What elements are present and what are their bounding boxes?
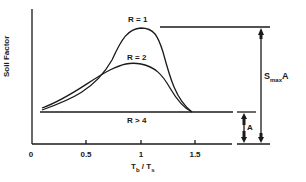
a-label: A <box>247 124 253 132</box>
r4-label: R > 4 <box>127 117 146 125</box>
series-r-1 <box>42 28 192 112</box>
smax-arrow-top <box>258 28 264 35</box>
smax-arrow-bottom <box>258 137 264 143</box>
r1-label: R = 1 <box>128 16 147 24</box>
soil-factor-chart <box>0 0 306 182</box>
smax-a-label: SmaxA <box>264 72 289 83</box>
series-r-2 <box>42 63 192 112</box>
a-arrow-top <box>241 113 247 119</box>
a-arrow-bottom <box>241 137 247 143</box>
y-axis-label: Soil Factor <box>3 36 11 77</box>
x-tick-label: 0 <box>29 151 33 159</box>
r2-label: R = 2 <box>127 54 146 62</box>
x-axis-label: Tb / Ts <box>131 163 154 173</box>
x-tick-label: 0.5 <box>80 151 91 159</box>
x-tick-label: 1.5 <box>189 151 200 159</box>
x-tick-label: 1 <box>139 151 143 159</box>
